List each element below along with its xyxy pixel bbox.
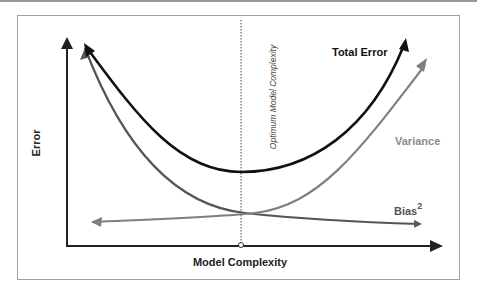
bias-label: Bias2 — [394, 201, 422, 217]
optimum-label: Optimum Model Complexity — [268, 44, 278, 149]
total-error-curve — [87, 45, 404, 172]
x-axis-label: Model Complexity — [193, 256, 288, 268]
total-error-label: Total Error — [332, 46, 388, 58]
x-axis — [66, 240, 443, 252]
variance-label: Variance — [395, 135, 440, 147]
bias-variance-diagram: Error Model Complexity Optimum Model Com… — [0, 0, 477, 295]
optimum-marker — [239, 243, 244, 248]
y-axis-label: Error — [30, 129, 42, 157]
y-axis — [61, 37, 73, 246]
variance-curve — [92, 65, 425, 222]
